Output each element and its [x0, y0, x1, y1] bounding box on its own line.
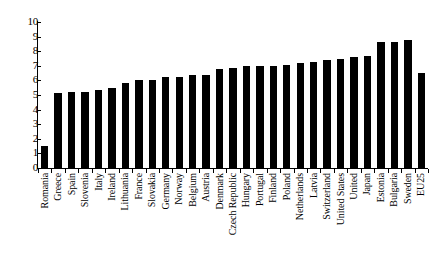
x-tick-mark	[428, 169, 429, 173]
x-axis-label: Poland	[282, 173, 292, 200]
bar	[404, 40, 411, 168]
x-label-slot: Netherlands	[294, 173, 307, 271]
x-axis-label: Portugal	[255, 173, 265, 206]
y-tick-label: 10	[6, 16, 38, 27]
bar	[270, 66, 277, 168]
bar	[95, 90, 102, 168]
bar	[68, 92, 75, 168]
bar	[391, 42, 398, 168]
bar	[149, 80, 156, 168]
x-axis-label: Denmark	[215, 173, 225, 210]
x-label-slot: Austria	[199, 173, 212, 271]
bar-slot	[243, 22, 250, 168]
bar-slot	[377, 22, 384, 168]
x-axis-label: United	[349, 173, 359, 200]
x-label-slot: Lithuania	[119, 173, 132, 271]
bar	[364, 56, 371, 168]
bar	[350, 57, 357, 168]
bar	[54, 93, 61, 168]
y-tick-label-wrap: 6	[0, 74, 38, 85]
x-axis-label: France	[134, 173, 144, 200]
x-label-slot: Hungary	[240, 173, 253, 271]
bar	[176, 77, 183, 168]
x-label-slot: France	[132, 173, 145, 271]
x-axis-label: Estonia	[376, 173, 386, 202]
bar-slot	[95, 22, 102, 168]
bar	[202, 75, 209, 168]
y-tick-label: 0	[6, 162, 38, 173]
x-axis-label: Italy	[94, 173, 104, 191]
x-label-slot: Czech Republic	[226, 173, 239, 271]
bar	[135, 80, 142, 168]
x-axis-label: Belgium	[188, 173, 198, 207]
x-label-slot: EU25	[415, 173, 428, 271]
bar-slot	[310, 22, 317, 168]
x-axis-label: Finland	[268, 173, 278, 203]
x-axis-label: Ireland	[107, 173, 117, 201]
y-tick-label: 2	[6, 133, 38, 144]
bar	[283, 65, 290, 168]
bar	[81, 92, 88, 168]
bar-slot	[404, 22, 411, 168]
x-label-slot: Denmark	[213, 173, 226, 271]
x-axis-label: Austria	[201, 173, 211, 202]
x-label-slot: Spain	[65, 173, 78, 271]
x-label-slot: Germany	[159, 173, 172, 271]
x-label-slot: Poland	[280, 173, 293, 271]
bar-slot	[135, 22, 142, 168]
bar-slot	[256, 22, 263, 168]
bar	[229, 68, 236, 168]
x-axis-label: Netherlands	[295, 173, 305, 220]
bar-slot	[418, 22, 425, 168]
x-axis-label: Norway	[174, 173, 184, 205]
y-tick-label: 5	[6, 89, 38, 100]
x-axis-label: Lithuania	[120, 173, 130, 210]
x-axis-label: Germany	[161, 173, 171, 210]
bar-slot	[297, 22, 304, 168]
x-label-slot: United	[347, 173, 360, 271]
y-tick-label-wrap: 2	[0, 133, 38, 144]
bar	[323, 60, 330, 168]
y-tick-label-wrap: 9	[0, 31, 38, 42]
bar	[216, 69, 223, 168]
bar-slot	[108, 22, 115, 168]
x-label-slot: Switzerland	[320, 173, 333, 271]
x-axis-label: Japan	[362, 173, 372, 195]
bar-slot	[283, 22, 290, 168]
bar-slot	[270, 22, 277, 168]
y-tick-label: 8	[6, 45, 38, 56]
x-axis-line	[37, 168, 428, 169]
x-label-slot: United States	[334, 173, 347, 271]
bar-slot	[162, 22, 169, 168]
x-axis-label: Slovakia	[147, 173, 157, 207]
bar-slot	[202, 22, 209, 168]
bar-slot	[229, 22, 236, 168]
x-label-slot: Italy	[92, 173, 105, 271]
y-tick-label-wrap: 8	[0, 45, 38, 56]
y-tick-label: 7	[6, 60, 38, 71]
x-axis-label: Bulgaria	[389, 173, 399, 207]
bar	[189, 75, 196, 168]
x-axis-label: Greece	[53, 173, 63, 201]
x-label-slot: Portugal	[253, 173, 266, 271]
x-axis-label: Romania	[40, 173, 50, 208]
bar	[162, 77, 169, 168]
x-label-slot: Greece	[51, 173, 64, 271]
y-tick-label: 3	[6, 118, 38, 129]
x-axis-labels: RomaniaGreeceSpainSloveniaItalyIrelandLi…	[38, 173, 428, 271]
x-label-slot: Slovenia	[78, 173, 91, 271]
bar	[108, 88, 115, 168]
bar-chart: 012345678910 RomaniaGreeceSpainSloveniaI…	[0, 0, 434, 273]
x-label-slot: Sweden	[401, 173, 414, 271]
bar	[310, 62, 317, 168]
y-tick-label-wrap: 5	[0, 89, 38, 100]
y-tick-label: 1	[6, 147, 38, 158]
x-label-slot: Belgium	[186, 173, 199, 271]
x-label-slot: Ireland	[105, 173, 118, 271]
x-label-slot: Norway	[172, 173, 185, 271]
bar-slot	[81, 22, 88, 168]
y-tick-label-wrap: 1	[0, 147, 38, 158]
bar	[122, 83, 129, 168]
bar-slot	[189, 22, 196, 168]
x-axis-label: United States	[336, 173, 346, 225]
